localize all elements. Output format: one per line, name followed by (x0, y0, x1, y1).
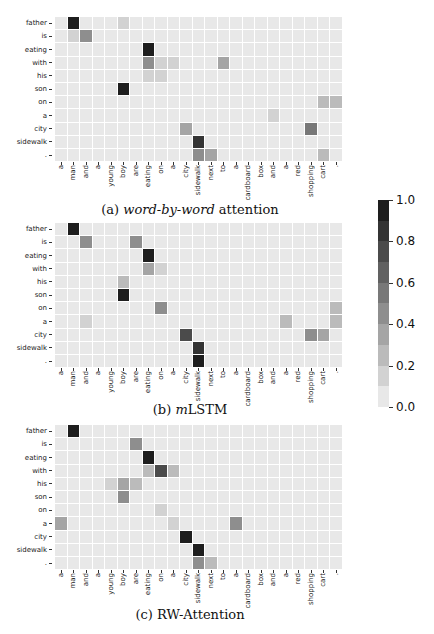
heatmap-cell (193, 17, 205, 29)
heatmap-cell (143, 329, 155, 341)
heatmap-cell (205, 531, 217, 543)
heatmap-cell (318, 478, 330, 490)
heatmap-cell (218, 438, 230, 450)
heatmap-cell (230, 43, 242, 55)
heatmap-cell (255, 289, 267, 301)
heatmap-cell (305, 329, 317, 341)
heatmap-cell (255, 123, 267, 135)
heatmap-cell (218, 329, 230, 341)
colorbar-segment (378, 366, 389, 387)
heatmap-cell (93, 43, 105, 55)
heatmap-cell (168, 83, 180, 95)
heatmap-cell (218, 57, 230, 69)
heatmap-cell (305, 451, 317, 463)
heatmap-cell (218, 425, 230, 437)
heatmap-cell (68, 17, 80, 29)
heatmap-cell (68, 96, 80, 108)
heatmap-cell (143, 355, 155, 367)
y-tick-label: city (34, 331, 52, 339)
panel-caption: (a) word-by-word attention (0, 202, 380, 217)
heatmap-cell (143, 315, 155, 327)
heatmap-cell (80, 70, 92, 82)
heatmap-cell (268, 355, 280, 367)
heatmap-cell (330, 517, 342, 529)
heatmap-cell (180, 236, 192, 248)
heatmap-cell (193, 149, 205, 161)
heatmap-cell (80, 451, 92, 463)
heatmap-cell (293, 438, 305, 450)
x-tick-label: cart (319, 573, 327, 587)
heatmap-cell (205, 236, 217, 248)
x-tick-label: shopping (307, 573, 315, 605)
heatmap-cell (205, 70, 217, 82)
heatmap-cell (105, 465, 117, 477)
x-tick-label: young (107, 371, 115, 393)
heatmap-cell (55, 544, 67, 556)
heatmap-cell (218, 96, 230, 108)
heatmap-cell (268, 249, 280, 261)
heatmap-cell (230, 263, 242, 275)
heatmap-cell (105, 342, 117, 354)
heatmap-cell (155, 43, 167, 55)
heatmap-cell (180, 315, 192, 327)
heatmap-cell (55, 491, 67, 503)
heatmap-cell (255, 96, 267, 108)
heatmap-cell (130, 517, 142, 529)
heatmap-cell (280, 17, 292, 29)
heatmap-cell (280, 329, 292, 341)
heatmap-cell (255, 425, 267, 437)
heatmap-cell (118, 491, 130, 503)
heatmap-cell (168, 236, 180, 248)
heatmap-cell (205, 302, 217, 314)
heatmap-cell (68, 83, 80, 95)
heatmap-cell (118, 531, 130, 543)
heatmap-cell (68, 425, 80, 437)
heatmap-cell (230, 451, 242, 463)
heatmap-cell (68, 531, 80, 543)
x-tick-label: to (219, 165, 227, 172)
x-tick-label: shopping (307, 371, 315, 403)
heatmap-cell (205, 465, 217, 477)
x-tick-label: a (232, 165, 240, 169)
heatmap-cell (280, 557, 292, 569)
heatmap-cell (93, 315, 105, 327)
heatmap-cell (280, 478, 292, 490)
heatmap-cell (243, 149, 255, 161)
heatmap-cell (55, 263, 67, 275)
heatmap-cell (243, 504, 255, 516)
heatmap-cell (205, 43, 217, 55)
heatmap-cell (168, 109, 180, 121)
heatmap-grid (55, 223, 342, 367)
x-tick-label: eating (144, 371, 152, 393)
heatmap-cell (180, 249, 192, 261)
heatmap-cell (193, 96, 205, 108)
heatmap-cell (205, 504, 217, 516)
heatmap-cell (80, 289, 92, 301)
heatmap-cell (105, 315, 117, 327)
heatmap-cell (318, 425, 330, 437)
heatmap-cell (105, 149, 117, 161)
y-tick-label: father (26, 19, 52, 27)
heatmap-cell (180, 70, 192, 82)
x-tick-label: a (169, 165, 177, 169)
heatmap-cell (155, 136, 167, 148)
heatmap-cell (193, 425, 205, 437)
heatmap-cell (230, 315, 242, 327)
heatmap-cell (318, 342, 330, 354)
heatmap-cell (93, 465, 105, 477)
heatmap-cell (280, 83, 292, 95)
heatmap-cell (168, 276, 180, 288)
heatmap-cell (218, 451, 230, 463)
heatmap-cell (68, 329, 80, 341)
heatmap-cell (118, 83, 130, 95)
heatmap-cell (330, 57, 342, 69)
heatmap-cell (55, 302, 67, 314)
heatmap-cell (180, 342, 192, 354)
x-tick-label: are (132, 371, 140, 382)
heatmap-cell (230, 355, 242, 367)
heatmap-cell (80, 57, 92, 69)
heatmap-cell (105, 438, 117, 450)
heatmap-cell (293, 17, 305, 29)
heatmap-cell (193, 342, 205, 354)
heatmap-cell (155, 57, 167, 69)
